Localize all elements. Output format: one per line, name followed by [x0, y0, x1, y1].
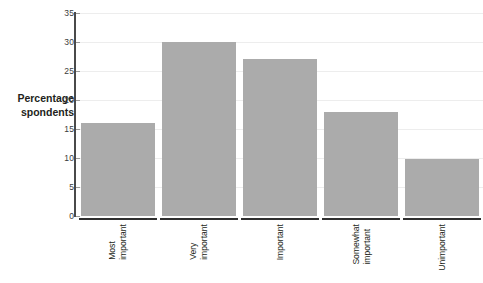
y-axis-tick-label: 20 — [54, 95, 74, 105]
bar — [324, 112, 398, 216]
y-axis-tick-mark — [76, 158, 80, 159]
y-axis-tick-mark — [76, 187, 80, 188]
bar — [81, 123, 155, 216]
bar — [162, 42, 236, 216]
x-axis-category-label-text: Veryimportant — [188, 224, 209, 260]
y-axis-tick-label: 25 — [54, 66, 74, 76]
y-axis-tick-mark — [76, 216, 80, 217]
x-axis-category-label-text: Somewhatimportant — [351, 224, 372, 265]
x-axis-segment — [160, 218, 238, 220]
x-axis-category-label: Somewhatimportant — [351, 224, 392, 282]
bar-chart: Percentage spondents 05101520253035 Most… — [0, 0, 483, 283]
x-axis-category-label: Veryimportant — [188, 224, 224, 282]
y-axis-tick-label: 15 — [54, 124, 74, 134]
y-axis-tick-mark — [76, 100, 80, 101]
x-axis-segment — [322, 218, 400, 220]
x-axis-category-label-text: Mostimportant — [107, 224, 128, 260]
bars — [77, 13, 483, 216]
y-axis-tick-label: 0 — [54, 211, 74, 221]
y-axis-tick-label: 35 — [54, 8, 74, 18]
y-axis-tick-label: 30 — [54, 37, 74, 47]
bar — [405, 159, 479, 216]
bar — [243, 59, 317, 216]
y-axis-tick-mark — [76, 42, 80, 43]
x-axis-category-label: Important — [275, 224, 311, 282]
x-axis-segment — [79, 218, 157, 220]
y-axis-tick-label: 10 — [54, 153, 74, 163]
y-axis-tick-label: 5 — [54, 182, 74, 192]
y-axis-tick-mark — [76, 71, 80, 72]
y-axis-tick-mark — [76, 129, 80, 130]
x-axis-segment — [403, 218, 481, 220]
x-axis-category-label: Mostimportant — [107, 224, 143, 282]
x-axis-segment — [241, 218, 319, 220]
x-axis-category-label-text: Important — [275, 224, 286, 260]
x-axis-category-label: Unimportant — [437, 224, 483, 282]
y-axis-tick-labels: 05101520253035 — [54, 0, 74, 283]
plot-area — [77, 13, 483, 216]
x-axis-category-label-text: Unimportant — [437, 224, 448, 271]
y-axis-tick-mark — [76, 13, 80, 14]
